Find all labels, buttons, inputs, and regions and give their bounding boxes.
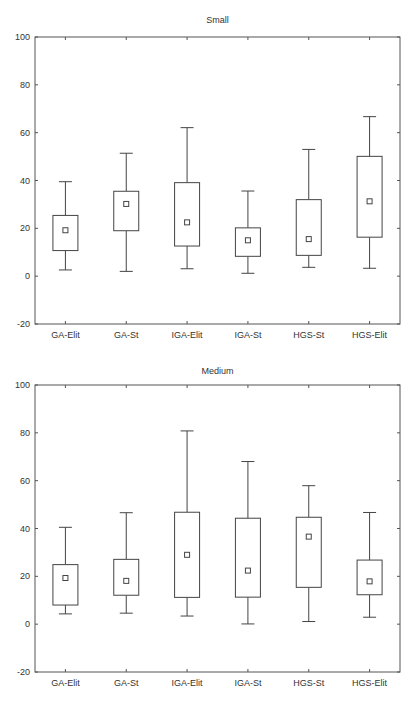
box-hgs-st [296,486,321,622]
y-tick-label: 40 [20,524,30,534]
mean-marker [306,534,311,539]
box-iga-st [235,462,260,624]
box-body [357,560,382,595]
x-tick-label: HGS-St [293,678,325,688]
mean-marker [63,576,68,581]
box-body [53,565,78,605]
box-body [296,517,321,587]
boxplot-medium: -20020406080100GA-ElitGA-StIGA-ElitIGA-S… [0,0,418,704]
y-tick-label: 100 [15,380,30,390]
mean-marker [245,568,250,573]
x-tick-label: HGS-Elit [352,678,388,688]
mean-marker [367,579,372,584]
y-tick-label: -20 [17,667,30,677]
box-ga-st [114,513,139,613]
chart-medium: Medium -20020406080100GA-ElitGA-StIGA-El… [0,0,418,704]
box-ga-elit [53,527,78,614]
x-tick-label: GA-Elit [51,678,80,688]
x-tick-label: IGA-Elit [172,678,204,688]
y-tick-label: 0 [25,619,30,629]
box-iga-elit [175,431,200,616]
x-tick-label: GA-St [114,678,139,688]
mean-marker [124,578,129,583]
x-tick-label: IGA-St [234,678,262,688]
y-tick-label: 80 [20,428,30,438]
y-tick-label: 60 [20,476,30,486]
y-tick-label: 20 [20,571,30,581]
plot-frame [35,385,400,672]
box-body [235,518,260,597]
mean-marker [185,552,190,557]
box-hgs-elit [357,512,382,617]
box-body [114,559,139,595]
